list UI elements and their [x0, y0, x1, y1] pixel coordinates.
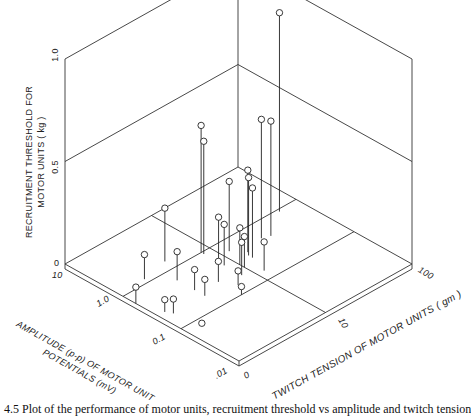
- data-point: [261, 239, 267, 245]
- z-tick-1: 1.0: [50, 48, 60, 61]
- data-point: [199, 320, 205, 326]
- data-point: [174, 248, 180, 254]
- data-point: [170, 296, 176, 302]
- data-point: [202, 276, 208, 282]
- data-point: [215, 258, 221, 264]
- data-point: [235, 268, 241, 274]
- data-point: [201, 138, 207, 144]
- data-point: [133, 284, 139, 290]
- data-point: [237, 225, 243, 231]
- z-tick-05: 0.5: [50, 160, 60, 173]
- data-point: [215, 214, 221, 220]
- data-point: [191, 266, 197, 272]
- z-axis-label-line2: MOTOR UNITS ( kg ): [35, 77, 47, 247]
- data-point: [268, 118, 274, 124]
- figure-caption: 4.5 Plot of the performance of motor uni…: [4, 402, 471, 417]
- z-tick-0: 0: [54, 258, 59, 268]
- data-point: [238, 239, 244, 245]
- z-axis-label-line1: RECRUITMENT THRESHOLD FOR: [23, 77, 35, 247]
- data-point: [226, 178, 232, 184]
- data-point: [162, 296, 168, 302]
- z-axis-label: RECRUITMENT THRESHOLD FOR MOTOR UNITS ( …: [23, 77, 47, 247]
- data-point: [162, 205, 168, 211]
- data-point: [245, 167, 251, 173]
- data-point: [221, 221, 227, 227]
- data-point: [198, 122, 204, 128]
- data-point: [258, 116, 264, 122]
- x-tick-10: 10: [52, 270, 63, 280]
- data-point: [238, 283, 244, 289]
- data-point: [249, 185, 255, 191]
- data-point: [276, 10, 282, 16]
- data-point: [245, 174, 251, 180]
- data-point: [141, 251, 147, 257]
